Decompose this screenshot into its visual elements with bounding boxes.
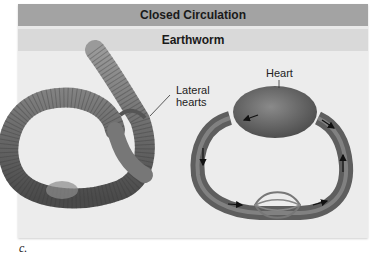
lateral-hearts-label: Lateral hearts <box>176 84 210 108</box>
heart-label: Heart <box>266 67 293 79</box>
earthworm-illustration <box>8 50 170 199</box>
figure-caption: c. <box>19 241 27 256</box>
clitellum <box>46 181 78 199</box>
diagram-illustration <box>0 0 373 256</box>
circulation-loop-illustration <box>197 80 346 218</box>
heart-shape <box>233 86 317 138</box>
